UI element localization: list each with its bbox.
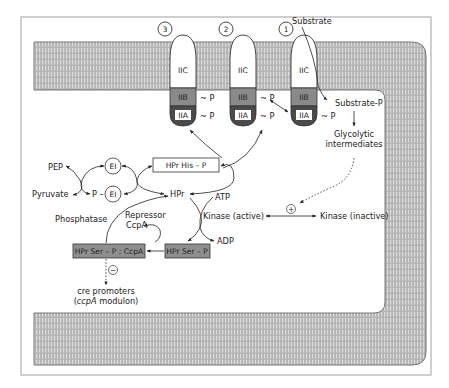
p-ei-prefix: P – <box>92 189 104 199</box>
hpr-his-p-label: HPr His – P <box>166 161 207 170</box>
iia-phospho-label: ~ P <box>321 111 335 121</box>
iib-label: IIB <box>178 93 188 102</box>
p-ei-label: EI <box>110 190 117 199</box>
iic-label: IIC <box>238 66 248 75</box>
iia-label: IIA <box>238 111 248 120</box>
kinase-inactive-label: Kinase (inactive) <box>320 211 389 221</box>
pts-diagram-svg: 3 IIC IIB IIA ~ P ~ P 2 IIC IIB IIA ~ P … <box>0 0 449 388</box>
pep-label: PEP <box>48 162 63 172</box>
substrate-label: Substrate <box>292 16 332 26</box>
iia-phospho-label: ~ P <box>200 111 214 121</box>
glycolytic-label-line1: Glycolytic <box>334 129 374 139</box>
phosphatase-label: Phosphatase <box>55 214 107 224</box>
repressor-label: Repressor <box>125 210 166 220</box>
substrate-p-label: Substrate-P <box>335 98 383 108</box>
cre-promoters-label: cre promoters <box>77 286 135 296</box>
adp-label: ADP <box>217 236 234 246</box>
transporter-number: 2 <box>224 25 229 34</box>
iia-label: IIA <box>178 111 188 120</box>
hpr-ser-p-ccpa-label: HPr Ser – P : CcpA <box>75 247 144 256</box>
iia-label: IIA <box>299 111 309 120</box>
iib-phospho-label: ~ P <box>200 93 214 103</box>
iib-label: IIB <box>299 93 309 102</box>
hpr-ser-p-label: HPr Ser – P <box>166 247 208 256</box>
minus-sign: − <box>110 266 116 275</box>
iic-domain <box>291 35 317 88</box>
transporter-number: 3 <box>163 25 168 34</box>
plus-sign: + <box>288 205 294 214</box>
transporter-number: 1 <box>284 25 289 34</box>
glycolytic-label-line2: intermediates <box>326 139 383 149</box>
ccpa-label: CcpA <box>126 220 147 230</box>
iic-domain <box>170 35 196 88</box>
pyruvate-label: Pyruvate <box>32 189 68 199</box>
iia-phospho-label: ~ P <box>260 111 274 121</box>
ei-label: EI <box>110 162 117 171</box>
iib-label: IIB <box>238 93 248 102</box>
kinase-active-label: Kinase (active) <box>203 211 264 221</box>
atp-label: ATP <box>215 192 230 202</box>
hpr-label: HPr <box>170 189 185 199</box>
diagram: 3 IIC IIB IIA ~ P ~ P 2 IIC IIB IIA ~ P … <box>0 0 449 388</box>
ccpa-modulon-label: (ccpA modulon) <box>74 296 139 306</box>
iic-label: IIC <box>178 66 188 75</box>
iic-domain <box>230 35 256 88</box>
iic-label: IIC <box>299 66 309 75</box>
